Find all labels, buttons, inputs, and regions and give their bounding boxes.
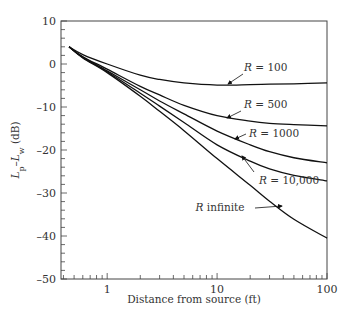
curve-label: R infinite (195, 201, 245, 213)
y-tick-label: –40 (37, 230, 57, 243)
y-tick-label: 0 (49, 58, 56, 71)
y-axis-label: Lp–Lw (dB) (9, 121, 26, 179)
x-tick-label: 1 (104, 283, 111, 296)
y-tick-label: –50 (37, 273, 57, 286)
y-tick-label: –30 (37, 187, 57, 200)
label-arrow (235, 134, 246, 139)
curve-label: R = 500 (243, 98, 287, 110)
y-tick-label: 10 (42, 15, 56, 28)
y-tick-label: –20 (37, 144, 57, 157)
curve-0 (69, 47, 327, 85)
label-arrow (227, 111, 241, 118)
curve-label: R = 1000 (248, 127, 299, 139)
curve-label: R = 10,000 (258, 174, 319, 186)
curve-label: R = 100 (243, 61, 287, 73)
x-axis-label: Distance from source (ft) (127, 293, 261, 305)
plot-frame (61, 21, 327, 279)
x-tick-label: 100 (317, 283, 338, 296)
y-axis: 100–10–20–30–40–50 (37, 15, 68, 286)
label-arrow (242, 156, 254, 172)
curve-3 (69, 47, 327, 181)
chart: 100–10–20–30–40–50 110100 R = 100R = 500… (0, 0, 350, 320)
y-tick-label: –10 (37, 101, 57, 114)
label-arrow (228, 74, 243, 84)
curve-1 (69, 47, 327, 126)
